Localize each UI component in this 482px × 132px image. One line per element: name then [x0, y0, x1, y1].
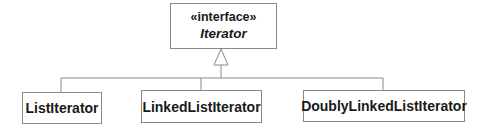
realization-arrowhead-icon [214, 49, 228, 65]
class-doublylinkedlistiterator-box: DoublyLinkedListIterator [303, 90, 465, 122]
interface-stereotype: «interface» [190, 9, 256, 25]
interface-iterator-box: «interface» Iterator [170, 3, 277, 49]
class-name: ListIterator [25, 100, 98, 116]
class-linkedlistiterator-box: LinkedListIterator [141, 90, 262, 123]
class-name: DoublyLinkedListIterator [301, 98, 467, 114]
class-listiterator-box: ListIterator [22, 92, 102, 124]
interface-name: Iterator [200, 25, 247, 43]
class-name: LinkedListIterator [142, 99, 260, 115]
